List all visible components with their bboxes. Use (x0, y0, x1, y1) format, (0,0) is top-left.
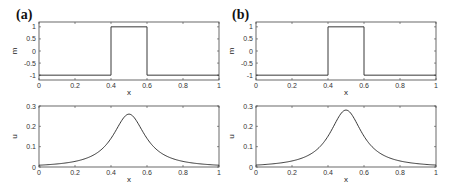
x-tick-label: 0.6 (142, 82, 152, 89)
y-tick-label: 0 (249, 164, 253, 171)
x-tick-label: 0.4 (106, 169, 116, 176)
y-tick-label: 0.1 (26, 143, 36, 150)
x-tick-label: 0.4 (323, 169, 333, 176)
m-plot-a: 00.20.40.60.81-1-0.500.51xm (10, 22, 221, 97)
y-tick-label: 0.2 (26, 123, 36, 130)
axes-frame (256, 22, 436, 80)
y-axis-label: u (10, 134, 19, 138)
y-axis-label: m (227, 47, 236, 54)
x-tick-label: 1 (217, 82, 221, 89)
x-tick-label: 1 (434, 169, 438, 176)
m-plot-b: 00.20.40.60.81-1-0.500.51xm (227, 22, 438, 97)
x-tick-label: 0.8 (178, 82, 188, 89)
series-u (39, 114, 219, 165)
y-tick-label: 0.3 (243, 103, 253, 110)
y-axis-label: u (227, 134, 236, 138)
y-tick-label: -1 (247, 72, 253, 79)
series-m (256, 27, 436, 75)
x-tick-label: 0 (254, 169, 258, 176)
y-tick-label: 1 (249, 23, 253, 30)
x-tick-label: 0.8 (395, 169, 405, 176)
y-tick-label: 0.5 (243, 35, 253, 42)
x-axis-label: x (344, 88, 348, 97)
panel-label-a: (a) (16, 7, 33, 23)
u-plot-a: 00.20.40.60.8100.10.20.3xu (10, 103, 221, 185)
panel-label-b: (b) (232, 7, 249, 23)
x-tick-label: 0.8 (395, 82, 405, 89)
y-tick-label: -1 (30, 72, 36, 79)
x-tick-label: 0.2 (287, 82, 297, 89)
x-tick-label: 0 (37, 82, 41, 89)
x-tick-label: 1 (434, 82, 438, 89)
y-tick-label: 1 (32, 23, 36, 30)
x-tick-label: 0 (254, 82, 258, 89)
x-axis-label: x (127, 175, 131, 184)
x-tick-label: 0.2 (70, 169, 80, 176)
u-plot-b: 00.20.40.60.8100.10.20.3xu (227, 103, 438, 185)
y-axis-label: m (10, 47, 19, 54)
y-tick-label: 0.1 (243, 143, 253, 150)
y-tick-label: -0.5 (24, 60, 36, 67)
panel-b: (b) 00.20.40.60.81-1-0.500.51xm 00.20.40… (227, 7, 438, 184)
x-tick-label: 0.8 (178, 169, 188, 176)
x-tick-label: 1 (217, 169, 221, 176)
axes-frame (39, 106, 219, 167)
series-m (39, 27, 219, 75)
x-tick-label: 0 (37, 169, 41, 176)
x-tick-label: 0.6 (359, 82, 369, 89)
y-tick-label: 0.5 (26, 35, 36, 42)
y-tick-label: 0 (32, 164, 36, 171)
x-axis-label: x (344, 175, 348, 184)
y-tick-label: -0.5 (241, 60, 253, 67)
y-tick-label: 0 (32, 48, 36, 55)
x-tick-label: 0.6 (359, 169, 369, 176)
axes-frame (256, 106, 436, 167)
y-tick-label: 0 (249, 48, 253, 55)
x-axis-label: x (127, 88, 131, 97)
y-tick-label: 0.3 (26, 103, 36, 110)
y-tick-label: 0.2 (243, 123, 253, 130)
x-tick-label: 0.4 (106, 82, 116, 89)
x-tick-label: 0.2 (70, 82, 80, 89)
axes-frame (39, 22, 219, 80)
figure: (a) 00.20.40.60.81-1-0.500.51xm 00.20.40… (0, 0, 454, 191)
x-tick-label: 0.2 (287, 169, 297, 176)
x-tick-label: 0.4 (323, 82, 333, 89)
series-u (256, 110, 436, 165)
panel-a: (a) 00.20.40.60.81-1-0.500.51xm 00.20.40… (10, 7, 221, 184)
x-tick-label: 0.6 (142, 169, 152, 176)
